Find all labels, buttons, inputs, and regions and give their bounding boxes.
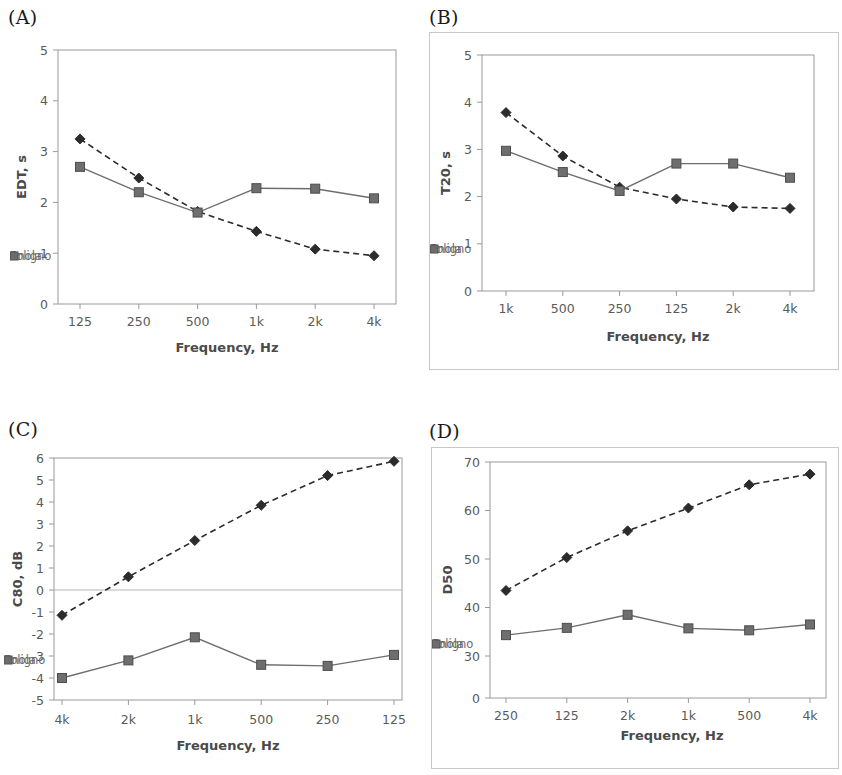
data-point-imola — [124, 656, 133, 665]
legend: FolignoImola — [432, 637, 473, 651]
legend-label-imola: Imola — [430, 242, 462, 256]
data-point-imola — [806, 620, 815, 629]
x-axis-title: Frequency, Hz — [176, 340, 279, 355]
x-axis-title: Frequency, Hz — [621, 728, 724, 743]
plot-box — [58, 50, 396, 304]
data-point-imola — [311, 184, 320, 193]
data-point-imola — [252, 184, 261, 193]
x-axis-title: Frequency, Hz — [177, 738, 280, 753]
y-tick-label: 5 — [36, 473, 44, 488]
data-point-foligno — [134, 173, 144, 183]
panel-d-plot: 030405060702501252k1k5004kFrequency, HzD… — [432, 448, 836, 766]
data-point-foligno — [683, 503, 693, 513]
y-tick-label: 2 — [464, 189, 472, 204]
x-tick-label: 2k — [620, 708, 636, 723]
data-point-imola — [323, 661, 332, 670]
plot-box — [54, 458, 402, 700]
panel-b-label: (B) — [429, 6, 459, 28]
data-point-foligno — [562, 553, 572, 563]
plot-box — [482, 55, 814, 291]
y-tick-label: 5 — [40, 43, 48, 58]
y-tick-label: -2 — [32, 627, 44, 642]
series-line-foligno — [80, 139, 374, 256]
y-axis-title: C80, dB — [10, 551, 25, 607]
x-tick-label: 4k — [54, 712, 70, 727]
data-point-imola — [58, 674, 67, 683]
data-point-imola — [193, 208, 202, 217]
plot-box — [490, 462, 826, 698]
x-tick-label: 1k — [681, 708, 697, 723]
y-tick-label: 0 — [472, 691, 480, 706]
panel-a-label: (A) — [8, 6, 37, 28]
data-point-foligno — [728, 202, 738, 212]
legend: FolignoImola — [430, 242, 471, 256]
y-tick-label: -4 — [32, 671, 45, 686]
y-tick-label: 6 — [36, 451, 44, 466]
x-tick-label: 125 — [664, 301, 688, 316]
y-tick-label: 50 — [464, 552, 480, 567]
y-axis-title: EDT, s — [14, 155, 29, 199]
data-point-foligno — [623, 526, 633, 536]
data-point-foligno — [310, 244, 320, 254]
panel-b: (B) 0123451k5002501252k4kFrequency, HzT2… — [421, 0, 842, 390]
x-tick-label: 250 — [608, 301, 632, 316]
x-tick-label: 500 — [551, 301, 575, 316]
x-tick-label: 4k — [366, 314, 382, 329]
panel-c-plot: -5-4-3-2-101234564k2k1k500250125Frequenc… — [4, 448, 414, 770]
data-point-foligno — [323, 471, 333, 481]
data-point-foligno — [744, 480, 754, 490]
y-tick-label: 3 — [464, 142, 472, 157]
panel-a-plot: 0123451252505001k2k4kFrequency, HzEDT, s… — [10, 38, 410, 378]
data-point-imola — [615, 186, 624, 195]
legend-label-imola: Imola — [432, 637, 464, 651]
legend-label-imola: Imola — [4, 653, 36, 667]
data-point-imola — [562, 623, 571, 632]
series-line-imola — [506, 615, 810, 635]
data-point-foligno — [805, 469, 815, 479]
x-tick-label: 4k — [782, 301, 798, 316]
data-point-foligno — [785, 203, 795, 213]
series-line-imola — [80, 167, 374, 213]
data-point-foligno — [256, 500, 266, 510]
y-tick-label: 4 — [36, 495, 44, 510]
y-tick-label: 0 — [464, 284, 472, 299]
y-axis-title: D50 — [440, 566, 455, 595]
y-tick-label: 40 — [464, 600, 480, 615]
data-point-imola — [558, 168, 567, 177]
series-line-imola — [62, 637, 394, 678]
y-tick-label: -5 — [32, 693, 44, 708]
x-tick-label: 125 — [555, 708, 579, 723]
data-point-foligno — [57, 610, 67, 620]
x-tick-label: 2k — [726, 301, 742, 316]
data-point-imola — [745, 626, 754, 635]
y-tick-label: 2 — [40, 195, 48, 210]
panel-a-chart: 0123451252505001k2k4kFrequency, HzEDT, s… — [10, 38, 410, 378]
x-tick-label: 250 — [127, 314, 151, 329]
x-tick-label: 1k — [249, 314, 265, 329]
series-line-imola — [506, 151, 790, 191]
y-tick-label: 0 — [36, 583, 44, 598]
panel-d-chart: 030405060702501252k1k5004kFrequency, HzD… — [431, 447, 839, 769]
data-point-foligno — [75, 134, 85, 144]
data-point-imola — [672, 159, 681, 168]
y-tick-label: 5 — [464, 48, 472, 63]
legend: FolignoImola — [4, 653, 45, 667]
panel-c: (C) -5-4-3-2-101234564k2k1k500250125Freq… — [0, 400, 421, 775]
data-point-imola — [502, 146, 511, 155]
x-tick-label: 125 — [382, 712, 406, 727]
y-axis-title: T20, s — [438, 151, 453, 195]
y-tick-label: -1 — [32, 605, 44, 620]
x-axis-title: Frequency, Hz — [607, 329, 710, 344]
legend-label-imola: Imola — [10, 249, 42, 263]
data-point-imola — [502, 631, 511, 640]
x-tick-label: 125 — [68, 314, 92, 329]
panel-b-plot: 0123451k5002501252k4kFrequency, HzT20, s… — [430, 33, 836, 367]
y-tick-label: 0 — [40, 297, 48, 312]
y-tick-label: 2 — [36, 539, 44, 554]
panel-b-chart: 0123451k5002501252k4kFrequency, HzT20, s… — [429, 32, 839, 370]
y-tick-label: 1 — [36, 561, 44, 576]
x-tick-label: 500 — [249, 712, 273, 727]
data-point-foligno — [671, 194, 681, 204]
panel-d: (D) 030405060702501252k1k5004kFrequency,… — [421, 400, 842, 775]
data-point-foligno — [558, 151, 568, 161]
